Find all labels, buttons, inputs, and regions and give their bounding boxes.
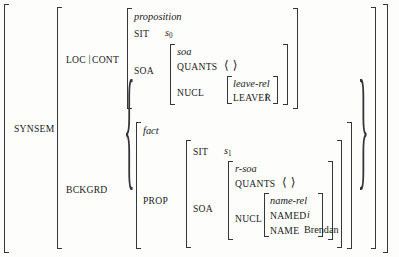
bracket-proposition-open bbox=[127, 8, 132, 109]
attribute-named: NAMED bbox=[270, 211, 306, 221]
brace-set-close: } bbox=[358, 63, 369, 196]
attribute-loc: LOC bbox=[66, 55, 86, 65]
bracket-soa-open bbox=[170, 44, 175, 105]
bracket-fact-close bbox=[347, 122, 352, 249]
attribute-soa-1: SOA bbox=[193, 204, 213, 214]
value-sit-1: s1 bbox=[224, 146, 232, 158]
attribute-cont: CONT bbox=[92, 55, 119, 65]
attribute-name: NAME bbox=[270, 226, 299, 236]
bracket-leave-rel-close bbox=[273, 76, 278, 104]
bracket-fact-open bbox=[136, 122, 141, 249]
value-name-brendan: Brendan bbox=[304, 225, 339, 235]
attribute-nucl-0: NUCL bbox=[177, 88, 204, 98]
bracket-proposition-close bbox=[293, 8, 298, 109]
bracket-r-soa-open bbox=[228, 161, 233, 240]
attribute-synsem: SYNSEM bbox=[14, 124, 54, 134]
value-sit-0: s0 bbox=[165, 28, 173, 40]
bracket-soa-close bbox=[283, 44, 288, 105]
bracket-prop-value-open bbox=[186, 140, 191, 248]
value-named-index: i bbox=[307, 210, 310, 220]
attribute-soa-0: SOA bbox=[134, 66, 154, 76]
type-r-soa: r-soa bbox=[235, 164, 257, 174]
bracket-synsem-close bbox=[383, 4, 388, 253]
value-leaver-index: i bbox=[265, 92, 268, 102]
type-proposition: proposition bbox=[134, 12, 182, 22]
attribute-sit-0: SIT bbox=[134, 29, 149, 39]
brace-set-open: { bbox=[124, 63, 135, 196]
bracket-name-rel-open bbox=[264, 193, 269, 237]
value-quants-0-empty-list: ⟨ ⟩ bbox=[224, 59, 238, 71]
attribute-sit-1: SIT bbox=[193, 147, 208, 157]
attribute-prop: PROP bbox=[143, 196, 168, 206]
type-name-rel: name-rel bbox=[270, 196, 307, 206]
attribute-bckgrd: BCKGRD bbox=[66, 185, 107, 195]
avm-figure: SYNSEM LOC | CONT proposition SIT s0 SOA… bbox=[0, 0, 399, 257]
bracket-synsem-value-open bbox=[57, 7, 62, 249]
bracket-synsem-open bbox=[4, 4, 9, 253]
type-leave-rel: leave-rel bbox=[233, 79, 270, 89]
attribute-quants-1: QUANTS bbox=[235, 179, 275, 189]
bracket-leave-rel-open bbox=[227, 76, 232, 104]
attribute-quants-0: QUANTS bbox=[177, 62, 217, 72]
value-quants-1-empty-list: ⟨ ⟩ bbox=[282, 176, 296, 188]
bracket-synsem-value-close bbox=[371, 7, 376, 249]
type-soa: soa bbox=[177, 47, 191, 57]
path-separator-bar: | bbox=[88, 54, 91, 65]
type-fact: fact bbox=[143, 126, 159, 136]
attribute-nucl-1: NUCL bbox=[235, 214, 262, 224]
